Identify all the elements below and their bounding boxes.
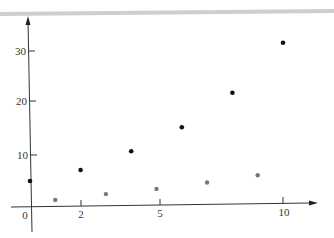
y-tick-label-30: 30: [15, 45, 27, 57]
scatter-chart: 30 20 10 0 2 5 10: [0, 0, 334, 238]
y-axis: 30 20 10: [15, 16, 37, 232]
data-point: [53, 198, 57, 202]
data-point: [129, 149, 134, 154]
top-band-divider: [0, 9, 334, 16]
y-tick-label-20: 20: [16, 95, 28, 107]
x-tick-label-0: 0: [22, 209, 28, 221]
data-point: [180, 125, 185, 130]
data-point: [78, 168, 83, 173]
x-axis-arrow-icon: [309, 201, 318, 206]
data-point: [230, 91, 235, 96]
x-tick-label-5: 5: [157, 207, 163, 219]
data-points: [28, 41, 286, 203]
x-tick-label-2: 2: [78, 208, 84, 220]
x-tick-label-10: 10: [279, 206, 291, 218]
data-point: [104, 192, 108, 196]
data-point: [154, 187, 158, 191]
data-point: [205, 180, 209, 184]
data-point: [256, 173, 260, 177]
data-point: [281, 41, 286, 46]
y-tick-label-10: 10: [17, 149, 29, 161]
data-point: [28, 179, 33, 184]
y-axis-arrow-icon: [26, 16, 31, 25]
